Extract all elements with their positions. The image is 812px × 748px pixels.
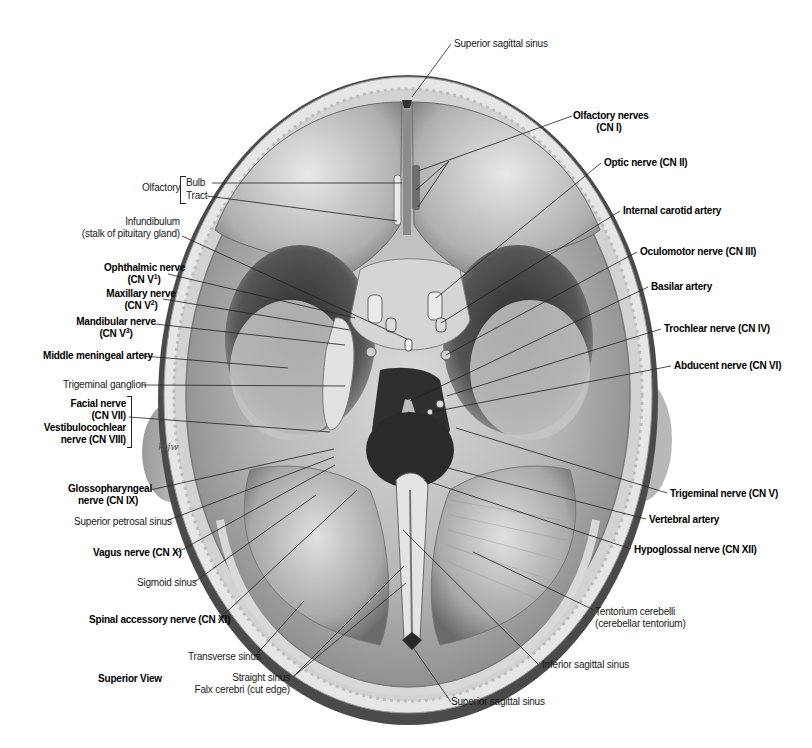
maxillary-cn-suffix: ) — [154, 300, 157, 311]
label-ophthalmic-line1: Ophthalmic nerve — [104, 262, 184, 274]
label-hypoglossal-nerve: Hypoglossal nerve (CN XII) — [634, 544, 757, 556]
label-straight-sinus: Straight sinus — [180, 672, 290, 684]
label-glossopharyngeal-line1: Glossopharyngeal — [68, 483, 148, 495]
mandibular-cn-suffix: ) — [129, 328, 132, 339]
label-internal-carotid-artery: Internal carotid artery — [623, 205, 721, 217]
label-olfactory-nerves: Olfactory nerves (CN I) — [573, 110, 645, 134]
label-spinal-accessory-nerve: Spinal accessory nerve (CN XI) — [89, 614, 230, 626]
label-mandibular-line1: Mandibular nerve — [76, 316, 156, 328]
internal-carotid-right — [436, 318, 446, 332]
label-maxillary-line1: Maxillary nerve — [104, 288, 178, 300]
maxillary-cn-prefix: (CN V — [124, 300, 150, 311]
label-mandibular-nerve: Mandibular nerve (CN V3) — [76, 316, 156, 340]
label-infundibulum-line2: (stalk of pituitary gland) — [40, 228, 180, 240]
label-infundibulum-line1: Infundibulum — [40, 216, 180, 228]
label-superior-petrosal-sinus: Superior petrosal sinus — [74, 516, 172, 528]
label-olfactory-bulb: Bulb — [186, 177, 205, 189]
olfactory-groove — [403, 110, 411, 235]
label-olfactory-nerves-line1: Olfactory nerves — [573, 110, 645, 122]
anatomy-figure: k.jw — [0, 0, 812, 748]
label-vestibulocochlear-nerve: Vestibulocochlear nerve (CN VIII) — [40, 422, 126, 446]
label-superior-sagittal-sinus-bottom: Superior sagittal sinus — [451, 696, 545, 708]
label-falx-cerebri: Falx cerebri (cut edge) — [180, 684, 290, 696]
label-vestibulocochlear-line2: nerve (CN VIII) — [40, 434, 126, 446]
label-glossopharyngeal-nerve: Glossopharyngeal nerve (CN IX) — [68, 483, 148, 507]
label-sigmoid-sinus: Sigmoid sinus — [137, 577, 197, 589]
label-ophthalmic-line2: (CN V1) — [104, 274, 184, 286]
artist-signature: k.jw — [158, 441, 179, 452]
cranial-cavity-illustration: k.jw — [0, 0, 812, 748]
infundibulum — [405, 339, 412, 351]
label-trigeminal-nerve: Trigeminal nerve (CN V) — [670, 488, 778, 500]
mandibular-cn-prefix: (CN V — [99, 328, 125, 339]
label-maxillary-line2: (CN V2) — [104, 300, 178, 312]
label-facial-line2: (CN VII) — [40, 410, 126, 422]
label-vertebral-artery: Vertebral artery — [649, 514, 719, 526]
label-basilar-artery: Basilar artery — [651, 281, 712, 293]
label-glossopharyngeal-line2: nerve (CN IX) — [68, 495, 148, 507]
label-vagus-nerve: Vagus nerve (CN X) — [93, 547, 182, 559]
label-inferior-sagittal-sinus: Inferior sagittal sinus — [542, 659, 629, 671]
label-middle-meningeal-artery: Middle meningeal artery — [43, 350, 153, 362]
trochlear-right — [436, 400, 444, 408]
label-abducent-nerve: Abducent nerve (CN VI) — [674, 360, 781, 372]
label-trigeminal-ganglion: Trigeminal ganglion — [63, 379, 146, 391]
label-optic-nerve: Optic nerve (CN II) — [604, 157, 687, 169]
label-transverse-sinus: Transverse sinus — [188, 651, 261, 663]
oculomotor-left — [366, 347, 376, 357]
olfactory-bulb-left — [394, 175, 401, 225]
label-ophthalmic-nerve: Ophthalmic nerve (CN V1) — [104, 262, 184, 286]
label-superior-sagittal-sinus-top: Superior sagittal sinus — [454, 38, 548, 50]
label-trochlear-nerve: Trochlear nerve (CN IV) — [664, 323, 770, 335]
label-tentorium-line1: Tentorium cerebelli — [595, 606, 686, 618]
ophthalmic-cn-suffix: ) — [157, 274, 160, 285]
optic-nerve-right — [428, 292, 442, 320]
label-oculomotor-nerve: Oculomotor nerve (CN III) — [640, 246, 756, 258]
label-tentorium-line2: (cerebellar tentorium) — [595, 618, 686, 630]
label-olfactory-tract: Tract — [186, 190, 207, 202]
facial-vestibulocochlear-bracket — [127, 396, 132, 448]
optic-nerve-left — [368, 295, 382, 323]
ophthalmic-cn-prefix: (CN V — [127, 274, 153, 285]
label-straight-sinus-falx: Straight sinus Falx cerebri (cut edge) — [180, 672, 290, 696]
label-olfactory-nerves-line2: (CN I) — [573, 122, 645, 134]
label-tentorium-cerebelli: Tentorium cerebelli (cerebellar tentoriu… — [595, 606, 686, 630]
label-olfactory-group-title: Olfactory — [142, 182, 180, 194]
label-facial-line1: Facial nerve — [40, 398, 126, 410]
label-facial-nerve: Facial nerve (CN VII) — [40, 398, 126, 422]
label-mandibular-line2: (CN V3) — [76, 328, 156, 340]
label-infundibulum: Infundibulum (stalk of pituitary gland) — [40, 216, 180, 240]
label-vestibulocochlear-line1: Vestibulocochlear — [40, 422, 126, 434]
figure-view-caption: Superior View — [98, 673, 162, 685]
label-maxillary-nerve: Maxillary nerve (CN V2) — [104, 288, 178, 312]
